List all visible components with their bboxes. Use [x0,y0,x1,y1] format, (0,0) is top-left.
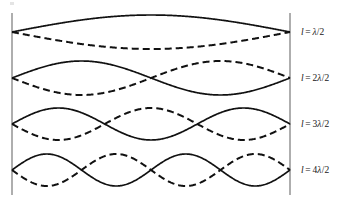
mode-3-solid [12,108,290,140]
mode-1-dashed [12,32,290,49]
mode-label-2: l=2λ/2 [301,73,329,83]
wave-curves [12,15,290,186]
mode-2-dashed [12,61,290,95]
wave-diagram-svg [0,0,346,201]
mode-label-4-fraction: /2 [322,165,330,175]
mode-label-3-fraction: /2 [322,119,330,129]
mode-1-solid [12,15,290,32]
mode-label-1: l=λ/2 [301,27,325,37]
mode-4-dashed [12,154,290,186]
standing-wave-figure: l=λ/2 l=2λ/2 l=3λ/2 l=4λ/2 [0,0,346,201]
mode-label-3: l=3λ/2 [301,119,329,129]
boundary-walls [12,13,290,195]
mode-label-1-fraction: /2 [317,27,325,37]
mode-label-2-fraction: /2 [322,73,330,83]
mode-label-4: l=4λ/2 [301,165,329,175]
mode-3-dashed [12,108,290,140]
